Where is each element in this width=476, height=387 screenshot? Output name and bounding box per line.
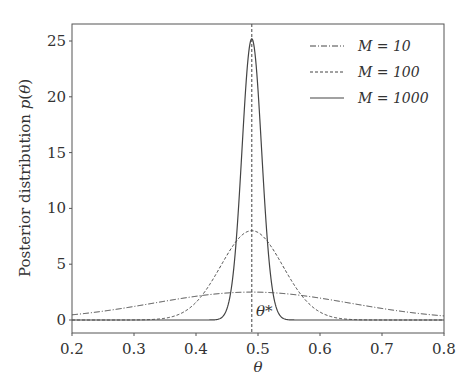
series-line-m1000 bbox=[72, 39, 444, 320]
x-axis: 0.20.30.40.50.60.70.8 bbox=[60, 333, 456, 358]
legend: M = 10 M = 100 M = 1000 bbox=[310, 38, 429, 106]
x-tick-label: 0.5 bbox=[246, 340, 270, 358]
x-tick-label: 0.2 bbox=[60, 340, 84, 358]
y-axis: 0510152025 bbox=[47, 32, 72, 329]
y-tick-label: 0 bbox=[56, 311, 66, 329]
x-tick-label: 0.4 bbox=[184, 340, 208, 358]
x-axis-label: θ bbox=[253, 358, 262, 376]
x-tick-label: 0.3 bbox=[122, 340, 146, 358]
y-tick-label: 10 bbox=[47, 199, 66, 217]
x-tick-label: 0.8 bbox=[432, 340, 456, 358]
y-tick-label: 25 bbox=[47, 32, 66, 50]
y-axis-label-text: Posterior distribution bbox=[16, 109, 34, 277]
y-tick-label: 15 bbox=[47, 144, 66, 162]
chart: 0.20.30.40.50.60.70.8 0510152025 θ Poste… bbox=[0, 0, 476, 387]
legend-label-m100: M = 100 bbox=[357, 64, 420, 80]
theta-star-annotation: θ* bbox=[256, 302, 273, 320]
legend-label-m1000: M = 1000 bbox=[357, 90, 429, 106]
y-tick-label: 5 bbox=[56, 255, 66, 273]
legend-label-m10: M = 10 bbox=[357, 38, 411, 54]
x-tick-label: 0.7 bbox=[370, 340, 394, 358]
x-tick-label: 0.6 bbox=[308, 340, 332, 358]
y-tick-label: 20 bbox=[47, 88, 66, 106]
y-axis-label: Posterior distribution p(θ) bbox=[16, 79, 34, 277]
